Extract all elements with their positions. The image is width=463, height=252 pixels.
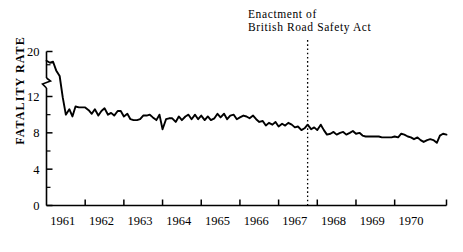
x-tick-label: 1966 (244, 214, 269, 228)
x-tick-label: 1969 (360, 214, 385, 228)
x-tick-label: 1962 (89, 214, 114, 228)
x-tick-label: 1967 (282, 214, 307, 228)
data-series (47, 61, 447, 143)
x-tick-label: 1968 (321, 214, 346, 228)
annotation-line-1: Enactment of (248, 8, 371, 21)
x-tick-label: 1970 (398, 214, 423, 228)
x-tick-label: 1964 (166, 214, 192, 228)
chart-plot-area: 0481220 19611962196319641965196619671968… (0, 0, 463, 252)
chart-figure: Enactment of British Road Safety Act FAT… (0, 0, 463, 252)
x-tick-label: 1965 (205, 214, 230, 228)
y-tick-label: 20 (27, 45, 40, 59)
annotation-line-2: British Road Safety Act (248, 21, 371, 34)
series-line (47, 61, 447, 143)
annotation-enactment: Enactment of British Road Safety Act (248, 8, 371, 34)
axes (43, 52, 447, 206)
y-tick-label: 0 (33, 199, 39, 213)
y-tick-label: 4 (33, 163, 40, 177)
y-axis-ticks: 0481220 (27, 45, 53, 213)
x-tick-label: 1963 (128, 214, 153, 228)
x-tick-label: 1961 (50, 214, 75, 228)
y-tick-label: 12 (27, 90, 40, 104)
y-axis-title: FATALITY RATE (13, 36, 28, 146)
x-axis-ticks: 1961196219631964196519661967196819691970 (50, 200, 446, 228)
y-tick-label: 8 (33, 126, 39, 140)
